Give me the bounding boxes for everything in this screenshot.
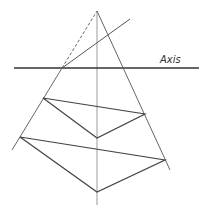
axis-label: Axis: [160, 54, 181, 65]
dashed-line: [62, 11, 97, 68]
projection-diagram: [0, 0, 209, 211]
left-line: [12, 68, 62, 150]
right-line: [97, 11, 170, 170]
diagram-canvas: Axis: [0, 0, 209, 211]
lower-triangle: [20, 137, 165, 192]
upper-triangle: [43, 98, 145, 138]
